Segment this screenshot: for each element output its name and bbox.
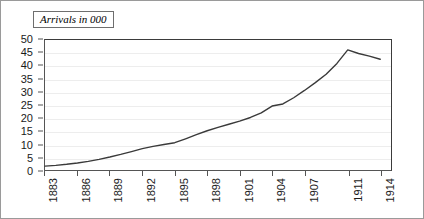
x-tick-mark [109, 171, 110, 176]
y-tick-label: 45 [21, 47, 33, 58]
x-tick-label: 1892 [146, 178, 157, 202]
y-tick-mark [38, 144, 43, 145]
x-tick-label: 1904 [276, 178, 287, 202]
plot-area [44, 39, 392, 171]
y-tick-mark [38, 65, 43, 66]
y-tick-label: 0 [27, 166, 33, 177]
y-axis: 05101520253035404550 [1, 39, 41, 171]
x-tick-mark [305, 171, 306, 176]
y-tick-mark [38, 157, 43, 158]
y-tick-mark [38, 131, 43, 132]
y-tick-mark [38, 118, 43, 119]
y-tick-label: 10 [21, 139, 33, 150]
x-tick-mark [207, 171, 208, 176]
y-tick-mark [38, 105, 43, 106]
y-tick-mark [38, 91, 43, 92]
page-title: Arrivals in 000 [40, 14, 107, 25]
x-tick-mark [240, 171, 241, 176]
y-tick-mark [38, 171, 43, 172]
x-tick-mark [175, 171, 176, 176]
y-tick-label: 5 [27, 152, 33, 163]
series-line-arrivals [45, 40, 391, 170]
y-tick-label: 30 [21, 86, 33, 97]
x-tick-mark [142, 171, 143, 176]
y-tick-label: 50 [21, 34, 33, 45]
y-tick-mark [38, 39, 43, 40]
x-tick-mark [44, 171, 45, 176]
x-tick-label: 1907 [309, 178, 320, 202]
x-tick-label: 1911 [353, 178, 364, 202]
x-tick-label: 1886 [81, 178, 92, 202]
y-tick-label: 25 [21, 100, 33, 111]
x-tick-label: 1914 [385, 178, 396, 202]
x-tick-label: 1898 [211, 178, 222, 202]
x-tick-label: 1883 [48, 178, 59, 202]
x-tick-mark [349, 171, 350, 176]
y-tick-mark [38, 52, 43, 53]
x-tick-label: 1889 [113, 178, 124, 202]
y-tick-label: 35 [21, 73, 33, 84]
x-tick-mark [381, 171, 382, 176]
chart-title-box: Arrivals in 000 [33, 11, 114, 28]
x-axis: 1883188618891892189518981901190419071911… [44, 171, 392, 219]
x-tick-mark [272, 171, 273, 176]
y-tick-label: 20 [21, 113, 33, 124]
y-tick-label: 40 [21, 60, 33, 71]
x-tick-label: 1901 [244, 178, 255, 202]
y-tick-mark [38, 78, 43, 79]
chart-figure: Arrivals in 000 05101520253035404550 188… [0, 0, 424, 219]
y-tick-label: 15 [21, 126, 33, 137]
x-tick-mark [77, 171, 78, 176]
x-tick-label: 1895 [179, 178, 190, 202]
